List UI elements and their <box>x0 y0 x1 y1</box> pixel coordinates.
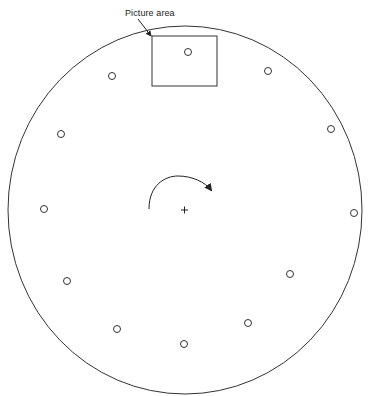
center-mark-icon <box>181 207 188 214</box>
hole-marker <box>114 326 121 333</box>
hole-marker <box>41 206 48 213</box>
rotation-arrow-icon <box>149 176 211 209</box>
picture-area-label: Picture area <box>125 8 175 18</box>
hole-marker <box>181 341 188 348</box>
hole-marker <box>287 271 294 278</box>
disk-diagram <box>0 0 369 396</box>
hole-marker <box>109 73 116 80</box>
picture-area-frame <box>152 36 217 86</box>
hole-marker <box>351 210 358 217</box>
hole-marker <box>328 126 335 133</box>
hole-marker <box>245 320 252 327</box>
hole-marker <box>58 131 65 138</box>
hole-marker <box>64 278 71 285</box>
hole-markers <box>41 49 358 348</box>
label-pointer-arrow <box>138 19 151 36</box>
hole-marker <box>265 68 272 75</box>
